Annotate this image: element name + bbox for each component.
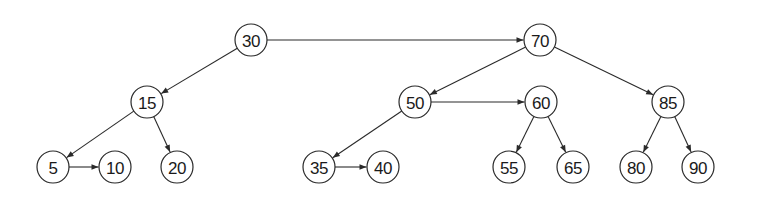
- tree-node-30: 30: [235, 24, 267, 56]
- node-label: 60: [532, 94, 550, 113]
- node-label: 70: [531, 32, 549, 51]
- child-edge-85-to-80: [643, 116, 661, 152]
- child-edge-70-to-85: [554, 47, 653, 95]
- tree-node-50: 50: [399, 86, 431, 118]
- nodes-layer: 30701550608551020354055658090: [37, 24, 714, 183]
- tree-node-70: 70: [524, 24, 556, 56]
- child-edge-60-to-55: [516, 116, 534, 152]
- node-label: 10: [106, 159, 124, 178]
- tree-node-80: 80: [620, 151, 652, 183]
- child-edge-30-to-15: [161, 48, 237, 93]
- tree-node-60: 60: [525, 86, 557, 118]
- node-label: 15: [138, 94, 156, 113]
- tree-node-35: 35: [303, 151, 335, 183]
- child-edge-70-to-50: [430, 47, 526, 95]
- node-label: 30: [242, 32, 260, 51]
- tree-node-5: 5: [37, 151, 69, 183]
- node-label: 40: [374, 159, 392, 178]
- tree-node-20: 20: [161, 151, 193, 183]
- tree-node-10: 10: [99, 151, 131, 183]
- child-edge-60-to-65: [548, 116, 566, 152]
- tree-node-40: 40: [367, 151, 399, 183]
- node-label: 5: [49, 159, 58, 178]
- child-edge-15-to-5: [67, 111, 134, 158]
- node-label: 80: [627, 159, 645, 178]
- child-edge-85-to-90: [675, 117, 691, 153]
- node-label: 55: [500, 159, 518, 178]
- node-label: 35: [310, 159, 328, 178]
- node-label: 90: [689, 159, 707, 178]
- tree-node-65: 65: [557, 151, 589, 183]
- node-label: 20: [168, 159, 186, 178]
- tree-node-90: 90: [682, 151, 714, 183]
- tree-node-55: 55: [493, 151, 525, 183]
- node-label: 65: [564, 159, 582, 178]
- node-label: 85: [659, 94, 677, 113]
- tree-node-15: 15: [131, 86, 163, 118]
- child-edge-50-to-35: [333, 111, 402, 158]
- tree-node-85: 85: [652, 86, 684, 118]
- child-edge-15-to-20: [154, 117, 170, 153]
- node-label: 50: [406, 94, 424, 113]
- tree-diagram: 30701550608551020354055658090: [0, 0, 774, 207]
